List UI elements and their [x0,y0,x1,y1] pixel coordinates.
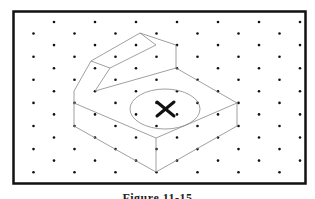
frame [14,12,306,184]
figure-caption: Figure 11-15 [0,191,315,199]
isometric-figure [0,0,315,199]
